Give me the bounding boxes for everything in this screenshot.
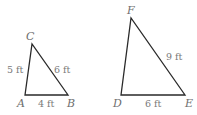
triangle-abc: C A B 5 ft 6 ft 4 ft [7,30,75,110]
similar-triangles-diagram: C A B 5 ft 6 ft 4 ft F D E 9 ft 6 ft [0,0,197,115]
vertex-label-f: F [126,4,135,17]
side-label-de: 6 ft [145,98,162,109]
side-label-fe: 9 ft [166,51,183,62]
vertex-label-a: A [16,97,25,110]
triangle-def: F D E 9 ft 6 ft [112,4,193,110]
side-label-ac: 5 ft [7,64,24,75]
vertex-label-e: E [184,97,193,110]
side-label-cb: 6 ft [54,64,71,75]
side-label-ab: 4 ft [38,98,55,109]
vertex-label-d: D [112,97,122,110]
vertex-label-c: C [26,30,35,43]
vertex-label-b: B [66,97,75,110]
